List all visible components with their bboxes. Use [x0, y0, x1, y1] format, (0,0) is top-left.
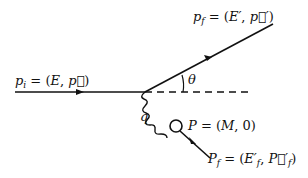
scattering-angle-label: θ	[188, 73, 196, 86]
incoming-momentum-label: pi = (E, p⃗)	[15, 74, 89, 90]
target-momentum-label: P = (M, 0)	[188, 119, 256, 132]
recoil-arrow-icon	[189, 137, 196, 144]
angle-arc	[182, 75, 184, 92]
recoil-momentum-label: Pf = (E′f, P⃗′f)	[208, 152, 296, 168]
outgoing-momentum-label: pf = (E′, p⃗′)	[193, 10, 274, 26]
recoil-particle-line	[180, 131, 210, 158]
momentum-transfer-label: q	[140, 110, 148, 123]
target-vertex-circle	[170, 120, 182, 132]
